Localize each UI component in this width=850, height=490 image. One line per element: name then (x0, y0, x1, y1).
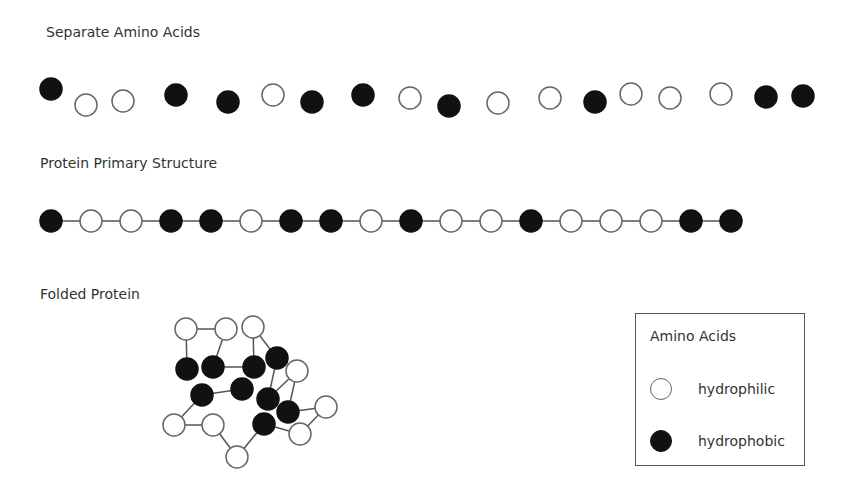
hydrophilic-bead (286, 360, 308, 382)
hydrophobic-bead (176, 358, 198, 380)
hydrophobic-bead (680, 210, 702, 232)
legend-label-hydrophobic: hydrophobic (698, 433, 785, 449)
hydrophilic-bead (75, 94, 97, 116)
hydrophilic-bead (242, 316, 264, 338)
hydrophobic-bead (755, 86, 777, 108)
hydrophobic-bead (253, 413, 275, 435)
hydrophobic-bead (160, 210, 182, 232)
hydrophobic-bead (720, 210, 742, 232)
hydrophilic-bead (620, 83, 642, 105)
hydrophobic-bead (520, 210, 542, 232)
hydrophilic-bead (202, 414, 224, 436)
hydrophobic-bead (352, 84, 374, 106)
hydrophilic-circle-icon (650, 378, 672, 400)
hydrophobic-bead (400, 210, 422, 232)
hydrophobic-bead (200, 210, 222, 232)
hydrophilic-bead (487, 92, 509, 114)
hydrophilic-bead (80, 210, 102, 232)
hydrophobic-bead (40, 210, 62, 232)
hydrophilic-bead (315, 396, 337, 418)
hydrophilic-bead (262, 84, 284, 106)
hydrophilic-bead (480, 210, 502, 232)
legend: Amino Acids hydrophilic hydrophobic (635, 313, 805, 466)
legend-item-hydrophobic: hydrophobic (650, 430, 785, 452)
hydrophilic-bead (215, 318, 237, 340)
hydrophobic-bead (243, 356, 265, 378)
hydrophilic-bead (399, 87, 421, 109)
hydrophobic-bead (165, 84, 187, 106)
hydrophilic-bead (360, 210, 382, 232)
legend-title: Amino Acids (650, 328, 736, 344)
hydrophilic-bead (600, 210, 622, 232)
hydrophobic-bead (40, 78, 62, 100)
hydrophobic-bead (277, 401, 299, 423)
hydrophobic-bead (438, 95, 460, 117)
hydrophobic-bead (584, 91, 606, 113)
hydrophilic-bead (560, 210, 582, 232)
hydrophobic-bead (320, 210, 342, 232)
hydrophobic-bead (266, 347, 288, 369)
hydrophobic-bead (280, 210, 302, 232)
hydrophobic-bead (792, 85, 814, 107)
hydrophilic-bead (120, 210, 142, 232)
hydrophobic-bead (231, 378, 253, 400)
hydrophilic-bead (539, 87, 561, 109)
hydrophobic-bead (301, 91, 323, 113)
hydrophilic-bead (226, 446, 248, 468)
hydrophilic-bead (710, 83, 732, 105)
hydrophilic-bead (112, 90, 134, 112)
legend-item-hydrophilic: hydrophilic (650, 378, 775, 400)
hydrophobic-bead (217, 91, 239, 113)
hydrophobic-bead (257, 388, 279, 410)
hydrophilic-bead (659, 87, 681, 109)
hydrophilic-bead (440, 210, 462, 232)
hydrophilic-bead (163, 414, 185, 436)
hydrophilic-bead (175, 318, 197, 340)
hydrophilic-bead (289, 423, 311, 445)
hydrophobic-bead (191, 384, 213, 406)
hydrophilic-bead (640, 210, 662, 232)
hydrophobic-bead (202, 356, 224, 378)
hydrophilic-bead (240, 210, 262, 232)
hydrophobic-circle-icon (650, 430, 672, 452)
legend-label-hydrophilic: hydrophilic (698, 381, 775, 397)
